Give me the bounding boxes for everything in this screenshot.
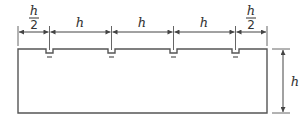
fraction-numerator: h [247, 3, 255, 18]
dim-label-5: h 2 [246, 3, 256, 32]
dim-label-3: h [138, 15, 146, 30]
extension-lines [18, 26, 290, 113]
dim-label-2: h [76, 15, 84, 30]
dim-label-4: h [200, 15, 208, 30]
fraction-denominator: 2 [247, 18, 255, 32]
dimension-diagram: h 2 h h h h 2 h [0, 0, 307, 120]
fraction-numerator: h [30, 3, 38, 18]
dim-label-1: h 2 [29, 3, 39, 32]
plate-outline [18, 49, 267, 113]
fraction-denominator: 2 [30, 18, 38, 32]
side-dim-label: h [291, 74, 299, 89]
